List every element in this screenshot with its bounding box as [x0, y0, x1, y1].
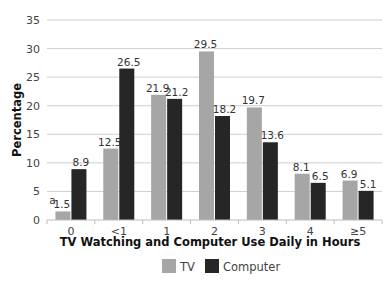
y-tick-label: 10 — [26, 157, 40, 170]
bars: 1.5a8.912.526.521.921.229.518.219.713.68… — [49, 38, 376, 220]
footnote-marker: a — [49, 194, 55, 206]
y-tick-label: 20 — [26, 100, 40, 113]
bar-tv — [343, 181, 358, 220]
bar-computer — [263, 142, 278, 220]
legend-swatch — [205, 259, 219, 273]
data-label: 1.5 — [54, 198, 71, 210]
data-label: 5.1 — [360, 178, 377, 190]
y-tick-label: 25 — [26, 71, 40, 84]
data-label: 6.9 — [341, 168, 358, 180]
legend-item-tv: TV — [162, 259, 195, 274]
bar-computer — [215, 116, 230, 220]
data-label: 19.7 — [242, 94, 265, 106]
data-label: 12.5 — [98, 136, 121, 148]
bar-computer — [359, 191, 374, 220]
legend-swatch — [162, 259, 176, 273]
y-tick-label: 30 — [26, 43, 40, 56]
bar-computer — [167, 99, 182, 220]
y-tick-label: 35 — [26, 14, 40, 27]
data-label: 13.6 — [261, 129, 285, 141]
y-tick-label: 0 — [33, 214, 40, 227]
legend-item-computer: Computer — [205, 259, 280, 274]
legend: TVComputer — [162, 259, 280, 274]
data-label: 26.5 — [117, 56, 140, 68]
bar-tv — [103, 149, 118, 220]
bar-tv — [247, 107, 262, 220]
y-tick-label: 15 — [26, 128, 40, 141]
y-tick-label: 5 — [33, 185, 40, 198]
data-label: 6.5 — [312, 170, 329, 182]
y-axis-ticks: 05101520253035 — [26, 14, 40, 227]
bar-tv — [151, 95, 166, 220]
bar-tv — [295, 174, 310, 220]
data-label: 18.2 — [213, 103, 236, 115]
legend-label: TV — [179, 260, 195, 274]
bar-chart: 05101520253035 1.5a8.912.526.521.921.229… — [0, 0, 386, 283]
data-label: 8.1 — [293, 161, 310, 173]
y-axis-title: Percentage — [10, 83, 24, 157]
data-label: 21.2 — [165, 86, 188, 98]
bar-tv — [55, 211, 70, 220]
data-label: 29.5 — [194, 38, 217, 50]
bar-computer — [119, 69, 134, 220]
x-axis-title: TV Watching and Computer Use Daily in Ho… — [60, 235, 361, 249]
bar-tv — [199, 51, 214, 220]
data-label: 8.9 — [73, 156, 90, 168]
bar-computer — [311, 183, 326, 220]
legend-label: Computer — [223, 260, 280, 274]
bar-computer — [71, 169, 86, 220]
